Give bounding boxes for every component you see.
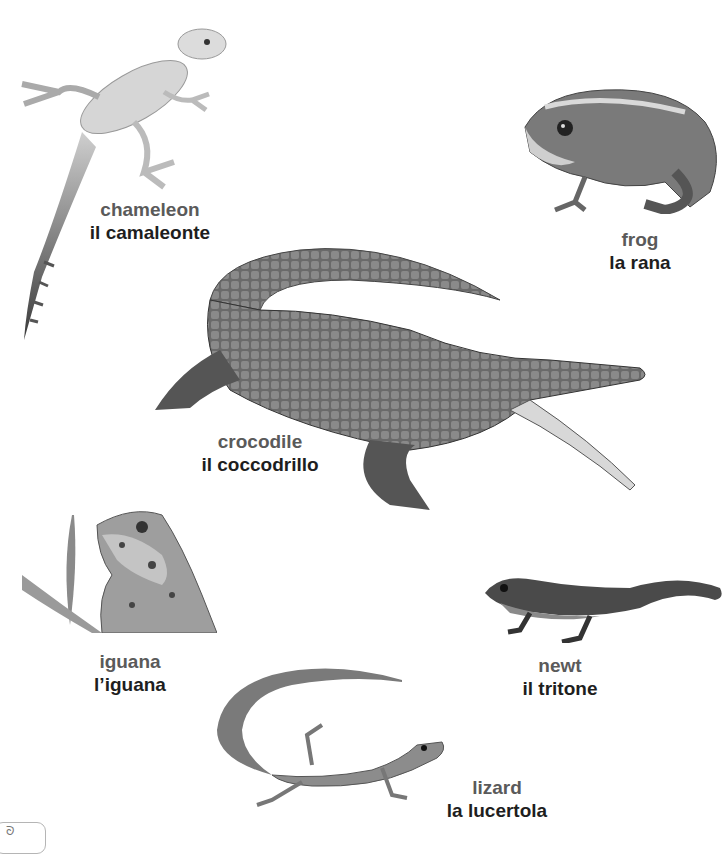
crocodile-image — [150, 240, 650, 520]
chameleon-english: chameleon — [70, 198, 230, 221]
page-marker-tab: ᘐ — [0, 822, 46, 854]
crocodile-english: crocodile — [190, 430, 330, 453]
lizard-italian: la lucertola — [432, 799, 562, 822]
iguana-image — [22, 505, 217, 633]
crocodile-label: crocodile il coccodrillo — [190, 430, 330, 476]
newt-italian: il tritone — [505, 677, 615, 700]
lizard-image — [212, 660, 447, 820]
newt-english: newt — [505, 654, 615, 677]
chameleon-label: chameleon il camaleonte — [70, 198, 230, 244]
iguana-english: iguana — [70, 650, 190, 673]
page-marker-glyph: ᘐ — [6, 824, 14, 838]
crocodile-italian: il coccodrillo — [190, 453, 330, 476]
lizard-english: lizard — [432, 776, 562, 799]
iguana-label: iguana l’iguana — [70, 650, 190, 696]
frog-image — [515, 82, 725, 214]
newt-image — [480, 568, 725, 643]
newt-label: newt il tritone — [505, 654, 615, 700]
lizard-label: lizard la lucertola — [432, 776, 562, 822]
iguana-italian: l’iguana — [70, 673, 190, 696]
